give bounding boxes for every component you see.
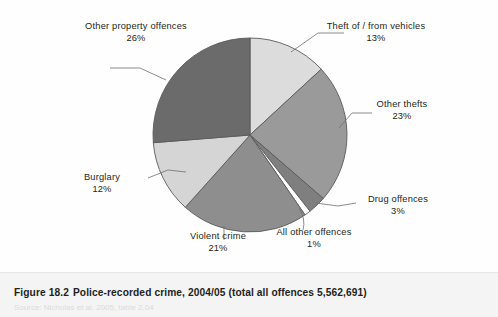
pie-label-name: Drug offences bbox=[348, 194, 448, 206]
pie-label-name: Other property offences bbox=[60, 21, 212, 33]
leader-line-other-property bbox=[110, 68, 166, 80]
figure-number: Figure 18.2 bbox=[14, 287, 69, 298]
pie-label-value: 3% bbox=[348, 206, 448, 218]
figure-caption-text: Police-recorded crime, 2004/05 (total al… bbox=[73, 287, 367, 298]
pie-slice bbox=[153, 38, 250, 143]
pie-label-violent-crime: Violent crime 21% bbox=[168, 231, 268, 254]
pie-label-all-other-offences: All other offences 1% bbox=[258, 227, 370, 250]
pie-label-value: 13% bbox=[300, 33, 452, 45]
figure-caption: Figure 18.2Police-recorded crime, 2004/0… bbox=[14, 287, 367, 298]
pie-label-value: 1% bbox=[258, 239, 370, 251]
pie-label-burglary: Burglary 12% bbox=[57, 172, 147, 195]
pie-label-name: Theft of / from vehicles bbox=[300, 21, 452, 33]
pie-label-other-thefts: Other thefts 23% bbox=[352, 99, 452, 122]
pie-label-value: 26% bbox=[60, 33, 212, 45]
figure-caption-block: Figure 18.2Police-recorded crime, 2004/0… bbox=[0, 272, 498, 317]
pie-label-name: Violent crime bbox=[168, 231, 268, 243]
pie-label-name: Other thefts bbox=[352, 99, 452, 111]
pie-label-theft-of-from-vehicles: Theft of / from vehicles 13% bbox=[300, 21, 452, 44]
pie-label-drug-offences: Drug offences 3% bbox=[348, 194, 448, 217]
pie-chart-area: Other property offences 26% Theft of / f… bbox=[0, 0, 498, 272]
pie-label-other-property-offences: Other property offences 26% bbox=[60, 21, 212, 44]
pie-label-value: 21% bbox=[168, 243, 268, 255]
pie-label-name: All other offences bbox=[258, 227, 370, 239]
pie-label-value: 23% bbox=[352, 111, 452, 123]
pie-label-value: 12% bbox=[57, 184, 147, 196]
pie-label-name: Burglary bbox=[57, 172, 147, 184]
figure-source: Source: Nicholas et al. 2005, table 2.04 bbox=[14, 303, 154, 312]
